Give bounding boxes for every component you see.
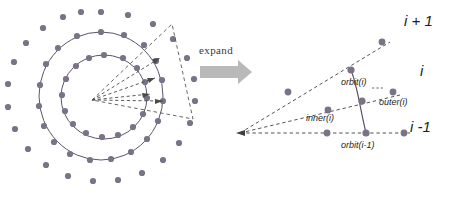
sector-outline	[92, 24, 193, 119]
left-panel-concentric-rings	[5, 9, 198, 184]
dot-i-plus-1-c	[379, 39, 386, 46]
dot-i-minus-1-c	[401, 130, 408, 137]
index-label-i: i	[420, 62, 423, 79]
expand-label: expand	[199, 44, 233, 56]
dot-outer-i	[390, 89, 397, 96]
term-label-orbit-i: orbit(i)	[341, 77, 367, 87]
dot-i-plus-1-orbit	[347, 66, 354, 73]
ray-i-plus-1-dots	[285, 39, 386, 96]
dot-i-plus-1-a	[285, 89, 292, 96]
expanded-ray-apex-arrow	[236, 130, 245, 136]
outer-dot-ring	[5, 9, 198, 184]
dot-orbit-i	[358, 97, 365, 104]
term-label-inner-i: inner(i)	[306, 113, 334, 123]
index-label-i-plus-1: i + 1	[404, 12, 433, 29]
dot-orbit-i-minus-1	[362, 129, 369, 136]
expand-arrow-icon	[200, 60, 252, 84]
term-label-orbit-i-minus-1: orbit(i-1)	[341, 140, 375, 150]
term-label-outer-i: outer(i)	[379, 97, 408, 107]
index-label-i-minus-1: i -1	[410, 118, 431, 135]
dot-i-minus-1-a	[324, 130, 331, 137]
